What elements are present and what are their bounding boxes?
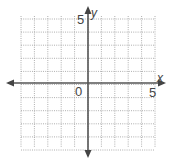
y-axis [85,6,92,158]
y-axis-bottom-arrow-icon [85,150,92,158]
y-axis-label: y [90,6,98,20]
y-tick-label-5: 5 [77,12,84,27]
coordinate-plane: x y 0 5 5 [0,0,171,163]
x-axis-left-arrow-icon [6,80,14,87]
x-axis-label: x [156,71,164,85]
x-tick-label-5: 5 [149,85,156,100]
origin-label: 0 [75,84,82,99]
